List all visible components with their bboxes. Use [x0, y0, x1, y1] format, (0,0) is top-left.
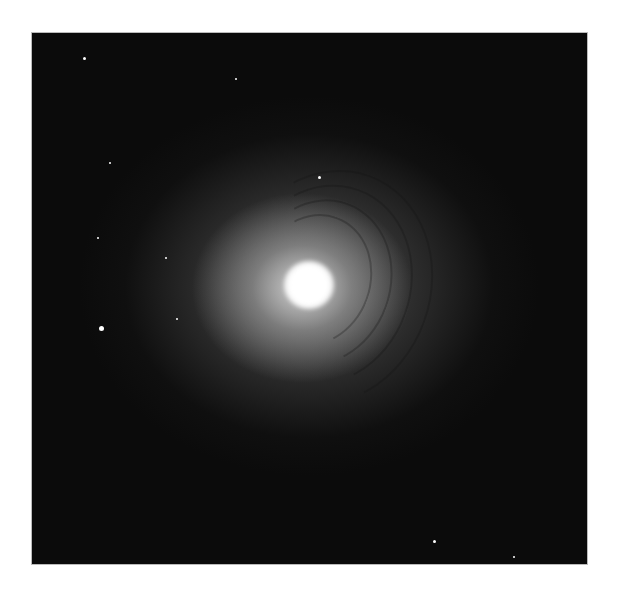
star: [97, 237, 99, 239]
star: [99, 326, 104, 331]
galaxy-core: [284, 261, 334, 309]
star: [165, 257, 167, 259]
star: [235, 78, 237, 80]
star: [433, 540, 436, 543]
star: [176, 318, 178, 320]
star: [109, 162, 111, 164]
star: [318, 176, 321, 179]
star: [83, 57, 86, 60]
galaxy-image: [31, 32, 588, 565]
star: [513, 556, 515, 558]
